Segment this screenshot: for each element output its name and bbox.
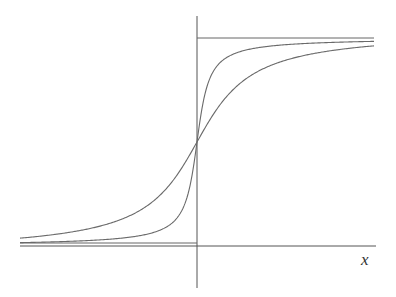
sigmoid-chart	[0, 0, 396, 297]
x-axis-label: x	[361, 250, 369, 270]
